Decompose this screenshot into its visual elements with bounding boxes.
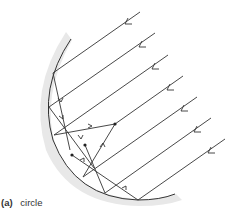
- mirror-shadow: [40, 32, 182, 206]
- mirror-diagram: [0, 0, 236, 217]
- incident-rays: [49, 12, 225, 200]
- caption-tag: (a): [1, 197, 13, 208]
- figure-caption: (a) circle: [1, 197, 42, 208]
- figure-circle-mirror: (a) circle: [0, 0, 236, 217]
- reflected-rays: [49, 73, 138, 200]
- caption-text: circle: [20, 197, 42, 208]
